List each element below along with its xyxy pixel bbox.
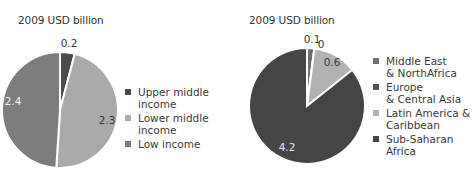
legend-swatch-icon [373, 84, 379, 90]
legend-swatch-icon [373, 110, 379, 116]
legend-item-sub-saharan-africa: Sub-Saharan Africa [373, 133, 476, 157]
pie-data-label: 0 [318, 38, 325, 50]
right-legend: Middle East & NorthAfrica Europe & Centr… [373, 55, 476, 159]
pie-data-label: 4.2 [279, 141, 296, 153]
pie-data-label: 0.6 [324, 56, 341, 68]
right-chart-panel: 2009 USD billion 0.100.64.2 Middle East … [0, 0, 476, 180]
legend-item-europe-central-asia: Europe & Central Asia [373, 81, 476, 105]
legend-swatch-icon [373, 58, 379, 64]
legend-item-middle-east-north-africa: Middle East & NorthAfrica [373, 55, 476, 79]
legend-swatch-icon [373, 136, 379, 142]
legend-item-latin-america-caribbean: Latin America & Caribbean [373, 107, 476, 131]
